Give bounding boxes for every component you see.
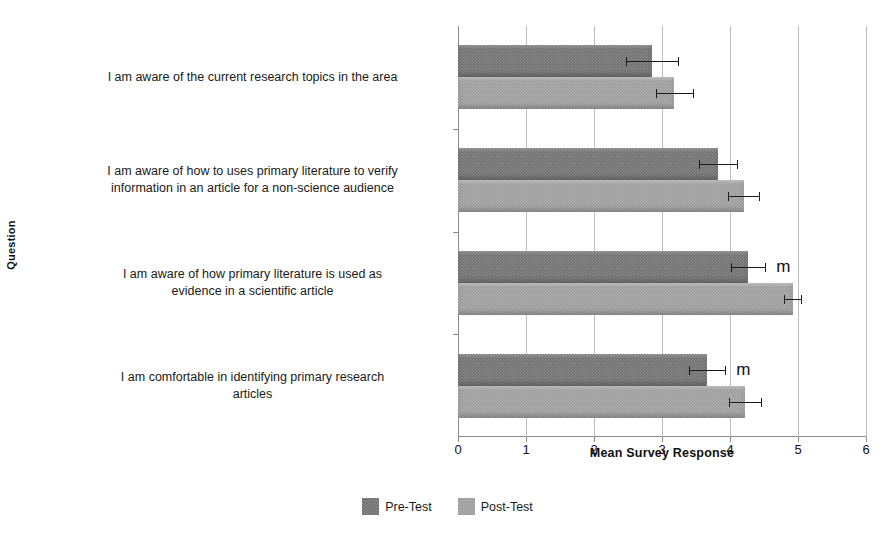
bar-chart: Question I am aware of the current resea… — [0, 0, 895, 548]
category-label: I am aware of how primary literature is … — [55, 266, 450, 300]
legend-item: Pre-Test — [362, 498, 432, 515]
error-bar-line — [626, 61, 678, 62]
error-bar-cap — [737, 160, 738, 169]
legend-item: Post-Test — [458, 498, 533, 515]
error-bar-cap — [801, 295, 802, 304]
category-label-line: I am aware of how to uses primary litera… — [55, 163, 450, 180]
category-label: I am aware of how to uses primary litera… — [55, 163, 450, 197]
category-label: I am aware of the current research topic… — [55, 69, 450, 86]
category-label-line: information in an article for a non-scie… — [55, 180, 450, 197]
bar-pre-test — [458, 45, 652, 77]
legend-swatch-post — [458, 498, 475, 515]
error-bar-line — [731, 267, 765, 268]
category-label-line: I am aware of the current research topic… — [55, 69, 450, 86]
y-axis-tick — [453, 334, 458, 335]
bar-post-test — [458, 77, 674, 109]
error-bar-cap — [765, 263, 766, 272]
error-bar-line — [728, 196, 759, 197]
error-bar-cap — [656, 89, 657, 98]
category-label-line: articles — [55, 386, 450, 403]
error-bar-cap — [693, 89, 694, 98]
category-label-line: I am aware of how primary literature is … — [55, 266, 450, 283]
error-bar-line — [656, 93, 693, 94]
legend: Pre-TestPost-Test — [0, 498, 895, 515]
category-label: I am comfortable in identifying primary … — [55, 369, 450, 403]
error-bar-cap — [626, 57, 627, 66]
error-bar-cap — [731, 263, 732, 272]
legend-label: Pre-Test — [385, 500, 432, 514]
legend-label: Post-Test — [481, 500, 533, 514]
bar-pre-test — [458, 354, 707, 386]
error-bar-line — [699, 164, 737, 165]
category-label-line: evidence in a scientific article — [55, 283, 450, 300]
error-bar-cap — [729, 398, 730, 407]
error-bar-cap — [699, 160, 700, 169]
error-bar-cap — [784, 295, 785, 304]
error-bar-line — [784, 299, 802, 300]
y-axis-tick — [453, 232, 458, 233]
bar-post-test — [458, 283, 793, 315]
bar-pre-test — [458, 148, 718, 180]
significance-marker: m — [776, 258, 790, 275]
legend-swatch-pre — [362, 498, 379, 515]
plot-area: mm 0123456 — [458, 26, 866, 437]
bar-post-test — [458, 180, 744, 212]
y-axis-tick — [453, 129, 458, 130]
x-axis-title: Mean Survey Response — [458, 446, 866, 460]
y-axis-title-text: Question — [5, 220, 17, 269]
error-bar-cap — [689, 366, 690, 375]
gridline — [866, 26, 867, 437]
error-bar-cap — [761, 398, 762, 407]
error-bar-cap — [725, 366, 726, 375]
error-bar-line — [729, 402, 762, 403]
y-axis-title: Question — [2, 185, 20, 305]
error-bar-cap — [728, 192, 729, 201]
error-bar-cap — [759, 192, 760, 201]
error-bar-line — [689, 370, 726, 371]
error-bar-cap — [678, 57, 679, 66]
gridline — [798, 26, 799, 437]
bar-post-test — [458, 386, 745, 418]
gridline — [730, 26, 731, 437]
bar-pre-test — [458, 251, 748, 283]
significance-marker: m — [736, 361, 750, 378]
category-label-line: I am comfortable in identifying primary … — [55, 369, 450, 386]
